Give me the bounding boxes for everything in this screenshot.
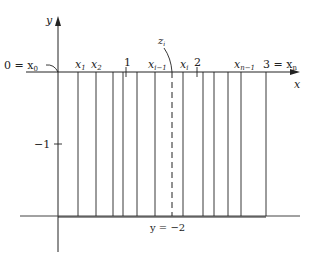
label-x1: x1 bbox=[75, 58, 86, 72]
label-x0: 0 = x0 bbox=[4, 59, 38, 73]
bottom-line-label: y = −2 bbox=[149, 222, 185, 233]
label-x2: x2 bbox=[91, 58, 102, 72]
y-axis-arrow-icon bbox=[55, 16, 61, 26]
x0-pointer bbox=[46, 65, 58, 72]
riemann-partition-diagram: y x y = −2 1 2 −1 0 = x0 x1 x2 xi−1 xi x… bbox=[0, 0, 320, 266]
label-xi-minus-1: xi−1 bbox=[148, 58, 167, 72]
tick-label-2: 2 bbox=[194, 56, 201, 69]
tick-label-1: 1 bbox=[124, 56, 131, 69]
tick-label-minus-1: −1 bbox=[34, 138, 50, 151]
label-xn: 3 = xn bbox=[263, 58, 297, 72]
label-zi: zi bbox=[157, 35, 165, 47]
y-axis-label: y bbox=[45, 14, 53, 27]
x-axis-label: x bbox=[294, 78, 301, 91]
label-xi: xi bbox=[180, 58, 188, 72]
label-xn-minus-1: xn−1 bbox=[234, 58, 255, 72]
